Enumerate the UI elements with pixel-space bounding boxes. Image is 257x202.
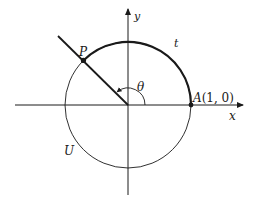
point-P-label: P	[78, 45, 88, 59]
x-axis-label: x	[229, 109, 236, 123]
point-A-coords: (1, 0)	[202, 91, 234, 105]
terminal-ray	[58, 36, 128, 105]
angle-theta-label: θ	[137, 80, 145, 94]
arc-t-label: t	[174, 37, 179, 50]
y-axis-label: y	[133, 10, 141, 23]
circle-U-label: U	[64, 144, 75, 158]
arc-t	[83, 42, 191, 105]
unit-circle-diagram: x y P t θ U A(1, 0)	[0, 0, 257, 202]
point-A-name: A	[192, 91, 202, 105]
point-A-label: A(1, 0)	[192, 91, 234, 105]
